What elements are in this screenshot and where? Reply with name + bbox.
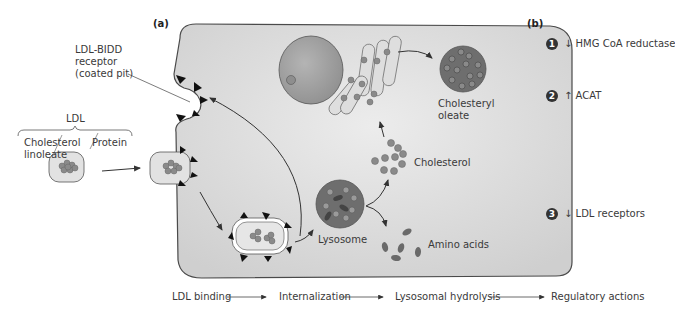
receptor-label-line3: (coated pit) <box>75 68 133 80</box>
flow-step-regulatory-actions: Regulatory actions <box>551 291 644 302</box>
panel-b-label: (b) <box>527 18 543 30</box>
arrow-down-icon: ↓ <box>564 208 572 219</box>
flow-step-lysosomal-hydrolysis: Lysosomal hydrolysis <box>395 291 501 302</box>
receptor-label-line1: LDL-BIDD <box>75 44 122 56</box>
action-2-text: ACAT <box>576 90 602 101</box>
action-3: 3↓ LDL receptors <box>546 208 645 220</box>
ldl-label: LDL <box>66 113 85 125</box>
cholesteryl-oleate-droplet <box>440 46 486 92</box>
action-2: 2↑ ACAT <box>546 90 601 102</box>
ldl-brace <box>18 126 132 136</box>
arrow-up-icon: ↑ <box>564 90 572 101</box>
cholesterol-linoleate-line2: linoleate <box>24 149 67 161</box>
cholesterol-linoleate-line1: Cholesterol <box>24 137 80 149</box>
amino-acids-label: Amino acids <box>428 239 489 251</box>
lysosome <box>316 180 364 228</box>
protein-label: Protein <box>92 137 127 149</box>
cholesteryl-oleate-line2: oleate <box>438 110 469 122</box>
lysosome-label: Lysosome <box>318 234 367 246</box>
flow-step-ldl-binding: LDL binding <box>172 291 231 302</box>
action-1-text: HMG CoA reductase <box>576 38 675 49</box>
number-1-icon: 1 <box>546 38 558 50</box>
panel-a-label: (a) <box>153 18 169 30</box>
number-2-icon: 2 <box>546 90 558 102</box>
number-3-icon: 3 <box>546 208 558 220</box>
action-1: 1↓ HMG CoA reductase <box>546 38 675 50</box>
receptor-label-line2: receptor <box>75 56 117 68</box>
cholesteryl-oleate-line1: Cholesteryl <box>438 98 494 110</box>
nucleus <box>279 36 343 104</box>
flow-step-internalization: Internalization <box>279 291 351 302</box>
arrow-down-icon: ↓ <box>564 38 572 49</box>
action-3-text: LDL receptors <box>576 208 645 219</box>
cholesterol-label: Cholesterol <box>414 157 470 169</box>
